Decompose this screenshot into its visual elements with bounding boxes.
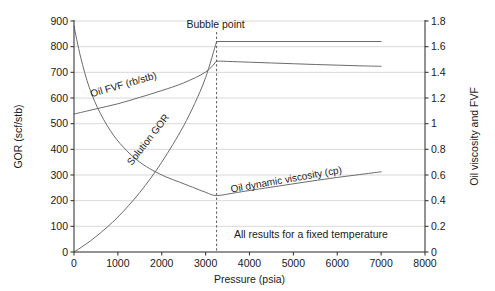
- right-tick-label-0.6: 0.6: [431, 169, 446, 181]
- bottom-tick-label-5000: 5000: [282, 257, 306, 269]
- pvt-properties-chart: 0100200300400500600700800900 00.20.40.60…: [0, 0, 495, 291]
- bottom-tick-label-0: 0: [71, 257, 77, 269]
- right-tick-label-0.8: 0.8: [431, 143, 446, 155]
- right-tick-label-1.4: 1.4: [431, 66, 446, 78]
- left-tick-label-800: 800: [50, 40, 68, 52]
- left-tick-label-500: 500: [50, 117, 68, 129]
- right-tick-label-0.2: 0.2: [431, 220, 446, 232]
- right-tick-label-0.4: 0.4: [431, 194, 446, 206]
- bottom-tick-label-7000: 7000: [369, 257, 393, 269]
- chart-figure: 0100200300400500600700800900 00.20.40.60…: [0, 0, 495, 291]
- right-tick-label-1.6: 1.6: [431, 40, 446, 52]
- left-tick-label-0: 0: [62, 246, 68, 258]
- left-axis-title: GOR (scf/stb): [12, 104, 24, 168]
- bottom-tick-label-2000: 2000: [150, 257, 174, 269]
- bottom-tick-label-4000: 4000: [238, 257, 262, 269]
- bottom-tick-label-6000: 6000: [326, 257, 350, 269]
- right-tick-label-1: 1: [431, 117, 437, 129]
- footnote-label: All results for a fixed temperature: [234, 228, 388, 240]
- bottom-tick-label-3000: 3000: [194, 257, 218, 269]
- left-tick-label-600: 600: [50, 92, 68, 104]
- left-tick-label-900: 900: [50, 15, 68, 27]
- right-tick-label-1.8: 1.8: [431, 15, 446, 27]
- right-tick-label-1.2: 1.2: [431, 92, 446, 104]
- left-tick-label-200: 200: [50, 194, 68, 206]
- left-tick-label-400: 400: [50, 143, 68, 155]
- right-axis-title: Oil viscosity and FVF: [468, 87, 480, 186]
- left-tick-label-300: 300: [50, 169, 68, 181]
- bottom-axis-title: Pressure (psia): [214, 273, 285, 285]
- bottom-tick-label-8000: 8000: [413, 257, 437, 269]
- left-tick-label-100: 100: [50, 220, 68, 232]
- bottom-tick-label-1000: 1000: [106, 257, 130, 269]
- left-tick-label-700: 700: [50, 66, 68, 78]
- bubble-point-label: Bubble point: [186, 18, 244, 30]
